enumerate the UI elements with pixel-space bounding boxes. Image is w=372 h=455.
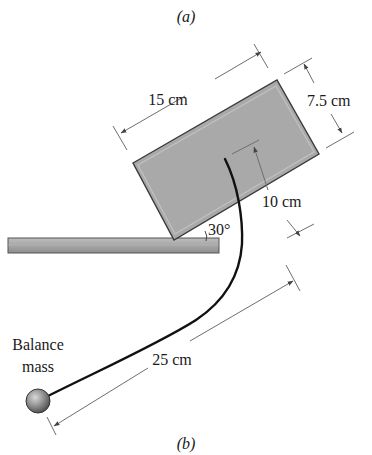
figure-canvas: (a) 15 cm 7.5 cm 10 cm 30° <box>0 0 372 455</box>
dimension-25cm-label: 25 cm <box>152 351 192 368</box>
caption-a: (a) <box>177 8 196 26</box>
balance-mass <box>26 389 50 413</box>
dimension-7-5cm-label: 7.5 cm <box>307 92 351 109</box>
balance-mass-label-line2: mass <box>22 358 54 375</box>
support-bar <box>8 238 219 253</box>
dimension-10cm-label: 10 cm <box>262 193 302 210</box>
caption-b: (b) <box>177 435 196 453</box>
angle-label: 30° <box>208 221 230 238</box>
dimension-25cm: 25 cm <box>47 265 300 435</box>
balance-mass-label-line1: Balance <box>12 336 64 353</box>
dimension-15cm-label: 15 cm <box>148 91 188 108</box>
